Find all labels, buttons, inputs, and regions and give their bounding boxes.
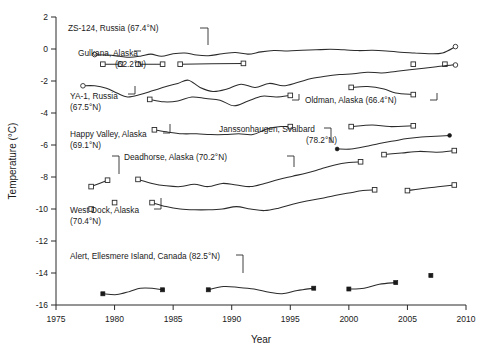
series-line — [95, 47, 456, 58]
series-0 — [92, 44, 457, 57]
marker-filled-square — [394, 281, 398, 285]
marker-filled-square — [206, 288, 210, 292]
marker-open-square — [152, 128, 157, 133]
series-line — [407, 185, 454, 191]
x-tick-label: 2005 — [398, 314, 417, 324]
marker-open-square — [288, 93, 293, 98]
y-tick-label: -16 — [36, 300, 49, 310]
y-tick-label: 2 — [43, 12, 48, 22]
y-tick-label: -6 — [40, 140, 48, 150]
marker-open-circle — [453, 44, 458, 49]
series-line — [138, 162, 361, 187]
annotation-ya1: YA-1, Russia(67.5°N) — [70, 91, 118, 112]
y-tick-label: 0 — [43, 44, 48, 54]
series-line — [208, 286, 313, 293]
annotation-happy-valley: Happy Valley, Alaska(69.1°N) — [70, 129, 147, 150]
y-axis-title: Temperature (°C) — [7, 123, 18, 200]
annotation-text: (70.4°N) — [70, 216, 101, 226]
annotation-text: Gulkana, Alaska — [78, 48, 138, 58]
marker-filled-circle — [335, 147, 339, 151]
series-line — [351, 87, 413, 95]
series-line — [103, 288, 163, 295]
marker-open-square — [411, 62, 416, 67]
marker-open-circle — [453, 63, 458, 68]
series-line — [384, 151, 454, 155]
marker-open-square — [136, 177, 141, 182]
marker-filled-circle — [448, 134, 452, 138]
annotation-text: West Dock, Alaska — [70, 205, 139, 215]
series-1 — [101, 61, 448, 66]
marker-open-square — [405, 188, 410, 193]
x-tick-label: 2010 — [457, 314, 476, 324]
annotation-text: YA-1, Russia — [70, 91, 118, 101]
series-5 — [335, 134, 451, 151]
chart-figure: 20-2-4-6-8-10-12-14-16197519801985199019… — [0, 0, 480, 349]
annotation-deadhorse: Deadhorse, Alaska (70.2°N) — [124, 152, 227, 162]
series-line — [83, 65, 456, 97]
annotation-text: Deadhorse, Alaska (70.2°N) — [124, 152, 227, 162]
marker-filled-square — [347, 287, 351, 291]
annotation-leader — [287, 156, 294, 167]
series-line — [337, 135, 449, 149]
annotation-text: (69.1°N) — [70, 140, 101, 150]
annotation-zs124: ZS-124, Russia (67.4°N) — [68, 23, 159, 33]
y-tick-label: -8 — [40, 172, 48, 182]
annotation-leader — [128, 86, 135, 94]
marker-open-square — [452, 148, 457, 153]
marker-open-square — [358, 160, 363, 165]
marker-filled-square — [429, 273, 433, 277]
x-tick-label: 1975 — [47, 314, 66, 324]
marker-open-square — [150, 200, 155, 205]
annotation-text: Happy Valley, Alaska — [70, 129, 147, 139]
y-tick-label: -14 — [36, 268, 49, 278]
annotation-leader — [200, 28, 208, 45]
marker-open-square — [101, 62, 106, 67]
annotation-oldman: Oldman, Alaska (66.4°N) — [305, 95, 397, 105]
annotation-text: Oldman, Alaska (66.4°N) — [305, 95, 397, 105]
x-tick-label: 1995 — [281, 314, 300, 324]
marker-filled-square — [312, 286, 316, 290]
y-tick-label: -2 — [40, 76, 48, 86]
annotation-leader — [236, 255, 243, 273]
marker-open-square — [372, 188, 377, 193]
series-8 — [101, 273, 433, 295]
annotation-text: (78.2°N) — [306, 135, 337, 145]
annotation-text: (67.5°N) — [70, 102, 101, 112]
marker-filled-square — [101, 292, 105, 296]
annotation-text: Janssonhaugen, Svalbard — [219, 124, 315, 134]
series-line — [180, 63, 243, 64]
temperature-timeseries-chart: 20-2-4-6-8-10-12-14-16197519801985199019… — [0, 0, 480, 349]
marker-filled-square — [161, 288, 165, 292]
series-line — [150, 95, 291, 105]
marker-open-square — [89, 184, 94, 189]
marker-open-square — [349, 124, 354, 129]
marker-open-circle — [81, 84, 86, 89]
annotation-text: (62.2°N) — [115, 59, 146, 69]
annotation-west-dock: West Dock, Alaska(70.4°N) — [70, 205, 139, 226]
x-tick-label: 1980 — [105, 314, 124, 324]
annotation-leader — [292, 94, 299, 100]
marker-open-square — [160, 62, 165, 67]
x-axis-title: Year — [251, 334, 272, 345]
x-tick-label: 2000 — [339, 314, 358, 324]
marker-open-square — [411, 124, 416, 129]
y-tick-label: -10 — [36, 204, 49, 214]
series-line — [351, 125, 413, 127]
annotation-text: ZS-124, Russia (67.4°N) — [68, 23, 159, 33]
marker-open-square — [241, 61, 246, 66]
marker-open-square — [178, 62, 183, 67]
annotation-janssonhaugen: Janssonhaugen, Svalbard(78.2°N) — [219, 124, 337, 145]
marker-open-square — [411, 92, 416, 97]
annotation-alert: Alert, Ellesmere Island, Canada (82.5°N) — [70, 251, 220, 261]
x-tick-label: 1985 — [164, 314, 183, 324]
marker-open-square — [147, 97, 152, 102]
series-line — [152, 190, 375, 211]
marker-open-square — [349, 85, 354, 90]
marker-open-square — [452, 183, 457, 188]
marker-open-square — [105, 178, 110, 183]
x-tick-label: 1990 — [222, 314, 241, 324]
annotation-leader — [430, 93, 437, 100]
annotation-leader — [112, 156, 119, 174]
series-line — [349, 283, 396, 289]
y-tick-label: -12 — [36, 236, 49, 246]
